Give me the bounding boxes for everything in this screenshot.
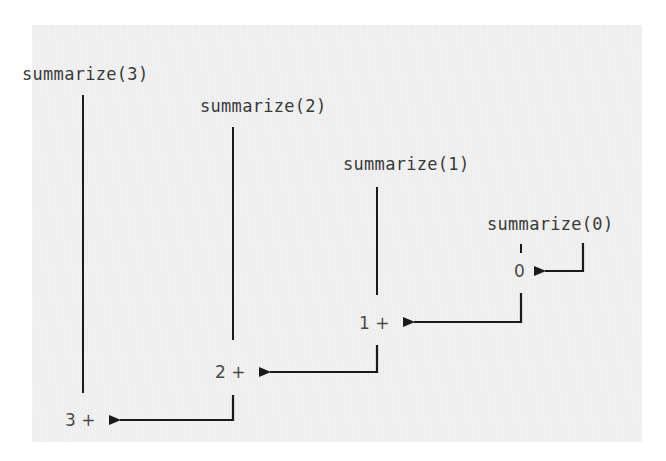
return-arrow-1 [414, 293, 521, 322]
call-label-summarize-2: summarize(2) [200, 96, 326, 116]
result-label-2: 2 + [215, 362, 245, 382]
return-arrow-0 [545, 243, 583, 271]
call-label-summarize-1: summarize(1) [343, 154, 469, 174]
recursion-diagram: summarize(3) summarize(2) summarize(1) s… [0, 0, 666, 461]
call-label-summarize-0: summarize(0) [487, 214, 613, 234]
return-arrow-2 [270, 345, 377, 372]
result-label-1: 1 + [359, 313, 389, 333]
result-label-3: 3 + [65, 410, 95, 430]
result-label-0: 0 [514, 261, 525, 281]
call-label-summarize-3: summarize(3) [22, 64, 148, 84]
return-arrow-3 [120, 395, 233, 420]
